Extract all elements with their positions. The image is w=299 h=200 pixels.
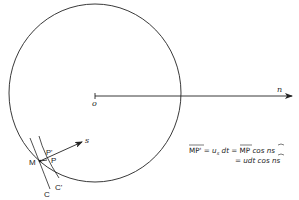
- c-prime-label: C': [55, 183, 63, 192]
- svg-text:= udt cos ns: = udt cos ns: [235, 156, 280, 165]
- p-label: P: [51, 156, 56, 165]
- point-m: [39, 160, 42, 163]
- wavefront-diagram: o n s M P P' C C' MP' = us dt = MP cos n…: [0, 0, 299, 200]
- svg-text:MP' = us dt = MP cos ns: MP' = us dt = MP cos ns: [189, 146, 275, 156]
- c-label: C: [44, 190, 50, 199]
- m-label: M: [29, 158, 36, 167]
- origin-label: o: [92, 99, 97, 108]
- equation-line-2: = udt cos ns: [235, 154, 284, 165]
- eq-mp-prime: MP': [189, 146, 202, 155]
- s-label: s: [85, 136, 89, 145]
- equation-line-1: MP' = us dt = MP cos ns: [189, 144, 284, 156]
- p-prime-label: P': [46, 148, 53, 157]
- normal-label: n: [277, 85, 282, 94]
